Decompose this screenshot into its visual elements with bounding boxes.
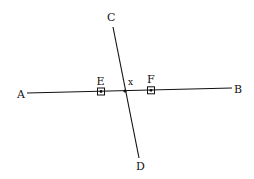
- label-d: D: [136, 160, 145, 173]
- intersection-point-x: [123, 89, 126, 92]
- label-b: B: [234, 83, 242, 96]
- label-a: A: [16, 88, 26, 101]
- label-x: x: [128, 77, 133, 87]
- label-f: F: [147, 73, 155, 86]
- diagram-canvas: A B C D E F x: [0, 0, 254, 179]
- label-e: E: [97, 75, 105, 88]
- line-cd: [113, 27, 139, 158]
- label-c: C: [107, 11, 115, 24]
- line-ab: [27, 88, 232, 93]
